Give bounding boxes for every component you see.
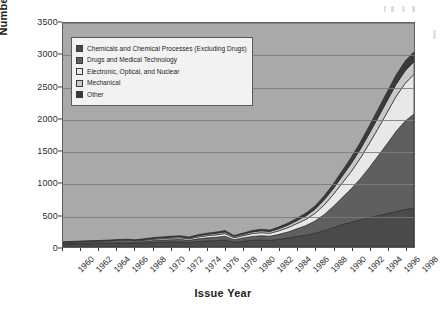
- legend-item: Drugs and Medical Technology: [76, 55, 247, 65]
- chart-legend: Chemicals and Chemical Processes (Exclud…: [71, 37, 253, 106]
- x-tick-label: 1972: [184, 254, 204, 274]
- x-tick-mark: [62, 248, 63, 251]
- x-tick-mark: [207, 248, 208, 251]
- legend-item: Chemicals and Chemical Processes (Exclud…: [76, 44, 247, 54]
- x-tick-mark: [243, 248, 244, 251]
- x-tick-label: 1994: [383, 254, 403, 274]
- x-tick-mark: [98, 248, 99, 251]
- x-tick-mark: [297, 248, 298, 251]
- x-tick-mark: [388, 248, 389, 251]
- legend-item: Other: [76, 90, 247, 100]
- x-tick-label: 1978: [238, 254, 258, 274]
- y-tick-label: 1000: [37, 178, 58, 188]
- x-tick-label: 1976: [220, 254, 240, 274]
- legend-item: Electronic, Optical, and Nuclear: [76, 67, 247, 77]
- legend-item: Mechanical: [76, 78, 247, 88]
- y-tick-label: 3500: [37, 17, 58, 27]
- legend-item-label: Mechanical: [87, 79, 120, 87]
- legend-item-label: Electronic, Optical, and Nuclear: [87, 68, 179, 76]
- x-tick-mark: [225, 248, 226, 251]
- x-tick-label: 1982: [275, 254, 295, 274]
- x-tick-label: 1964: [112, 254, 132, 274]
- y-tick-label: 2000: [37, 114, 58, 124]
- y-tick-label: 2500: [37, 82, 58, 92]
- gridline: [63, 217, 414, 218]
- x-tick-label: 1974: [202, 254, 222, 274]
- x-tick-mark: [406, 248, 407, 251]
- x-tick-mark: [171, 248, 172, 251]
- legend-item-label: Chemicals and Chemical Processes (Exclud…: [87, 45, 247, 53]
- y-tick-label: 3000: [37, 49, 58, 59]
- y-tick-label: 500: [42, 211, 58, 221]
- legend-swatch-icon: [76, 80, 83, 87]
- x-tick-label: 1980: [257, 254, 277, 274]
- legend-item-label: Drugs and Medical Technology: [87, 56, 177, 64]
- x-tick-label: 1962: [94, 254, 114, 274]
- x-tick-label: 1970: [166, 254, 186, 274]
- x-tick-mark: [134, 248, 135, 251]
- gridline: [63, 120, 414, 121]
- x-tick-mark: [370, 248, 371, 251]
- x-tick-mark: [352, 248, 353, 251]
- y-axis-tick-labels: 0500100015002000250030003500: [20, 22, 58, 248]
- x-tick-mark: [80, 248, 81, 251]
- x-tick-mark: [153, 248, 154, 251]
- legend-swatch-icon: [76, 57, 83, 64]
- x-tick-label: 1966: [130, 254, 150, 274]
- legend-item-label: Other: [87, 91, 104, 99]
- x-tick-label: 1992: [365, 254, 385, 274]
- x-tick-label: 1968: [148, 254, 168, 274]
- x-tick-mark: [279, 248, 280, 251]
- gridline: [63, 152, 414, 153]
- x-tick-mark: [189, 248, 190, 251]
- x-tick-mark: [334, 248, 335, 251]
- x-tick-mark: [261, 248, 262, 251]
- x-tick-label: 1986: [311, 254, 331, 274]
- legend-swatch-icon: [76, 45, 83, 52]
- x-axis-tick-labels: 1960196219641966196819701972197419761978…: [62, 250, 415, 290]
- gridline: [63, 23, 414, 24]
- y-axis-title: Number of Patents: [0, 0, 15, 60]
- gridline: [63, 184, 414, 185]
- x-tick-label: 1960: [76, 254, 96, 274]
- plot-area: Chemicals and Chemical Processes (Exclud…: [62, 22, 415, 248]
- x-tick-label: 1998: [419, 254, 439, 274]
- x-tick-label: 1984: [293, 254, 313, 274]
- x-tick-label: 1990: [347, 254, 367, 274]
- x-tick-label: 1988: [329, 254, 349, 274]
- x-tick-mark: [116, 248, 117, 251]
- x-axis-title: Issue Year: [0, 287, 446, 299]
- x-tick-label: 1996: [401, 254, 421, 274]
- legend-swatch-icon: [76, 68, 83, 75]
- legend-swatch-icon: [76, 91, 83, 98]
- y-tick-label: 1500: [37, 146, 58, 156]
- x-tick-mark: [315, 248, 316, 251]
- stacked-area-chart: Number of Patents 0500100015002000250030…: [0, 0, 446, 310]
